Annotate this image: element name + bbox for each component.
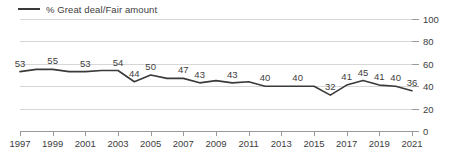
data-point-label: 53 [80, 58, 91, 69]
y-axis-tick [412, 64, 419, 65]
y-axis-tick [412, 86, 419, 87]
x-axis-tick [53, 131, 54, 136]
plot-area: 5355535444504743434040324145414036 [20, 19, 412, 131]
x-axis-label: 1999 [42, 138, 63, 149]
x-axis-tick [347, 131, 348, 136]
data-point-label: 40 [292, 72, 303, 83]
line-chart: % Great deal/Fair amount 535553544450474… [0, 0, 462, 152]
x-axis-tick [379, 131, 380, 136]
y-axis-label: 100 [423, 14, 439, 25]
data-point-label: 40 [390, 72, 401, 83]
x-axis-label: 1997 [9, 138, 30, 149]
x-axis-label: 2015 [303, 138, 324, 149]
x-axis-tick [281, 131, 282, 136]
y-axis-label: 20 [423, 103, 434, 114]
data-point-label: 41 [341, 71, 352, 82]
data-point-label: 40 [260, 72, 271, 83]
line-swatch-icon [18, 8, 40, 10]
x-axis-tick [20, 131, 21, 136]
series-line [20, 19, 412, 131]
x-axis-tick [183, 131, 184, 136]
y-axis: 020406080100 [412, 19, 462, 131]
x-axis-tick [249, 131, 250, 136]
x-axis-tick [216, 131, 217, 136]
y-axis-label: 60 [423, 58, 434, 69]
x-axis-tick [151, 131, 152, 136]
y-axis-label: 40 [423, 81, 434, 92]
x-axis-label: 2009 [205, 138, 226, 149]
x-axis-label: 2017 [336, 138, 357, 149]
x-axis-label: 2011 [238, 138, 258, 149]
x-axis-label: 2005 [140, 138, 161, 149]
data-point-label: 47 [178, 64, 189, 75]
data-point-label: 41 [374, 71, 385, 82]
y-axis-tick [412, 109, 419, 110]
data-point-label: 54 [113, 57, 124, 68]
x-axis-label: 2003 [107, 138, 128, 149]
data-point-label: 45 [358, 67, 369, 78]
data-point-label: 53 [15, 58, 26, 69]
x-axis-tick [85, 131, 86, 136]
x-axis-label: 2007 [173, 138, 194, 149]
data-point-label: 55 [47, 55, 58, 66]
y-axis-tick [412, 19, 419, 20]
data-point-label: 43 [227, 69, 238, 80]
y-axis-label: 80 [423, 36, 434, 47]
x-axis-label: 2019 [369, 138, 390, 149]
y-axis-tick [412, 131, 419, 132]
y-axis-label: 0 [423, 126, 428, 137]
x-axis-tick [314, 131, 315, 136]
data-point-label: 43 [194, 69, 205, 80]
data-point-label: 44 [129, 68, 140, 79]
data-point-label: 50 [145, 61, 156, 72]
x-axis-label: 2001 [75, 138, 96, 149]
x-axis-label: 2013 [271, 138, 292, 149]
y-axis-tick [412, 41, 419, 42]
legend-item-label: % Great deal/Fair amount [46, 4, 157, 15]
data-point-label: 32 [325, 81, 336, 92]
x-axis-label: 2021 [401, 138, 422, 149]
x-axis-tick [412, 131, 413, 136]
x-axis-tick [118, 131, 119, 136]
chart-legend: % Great deal/Fair amount [18, 2, 157, 16]
